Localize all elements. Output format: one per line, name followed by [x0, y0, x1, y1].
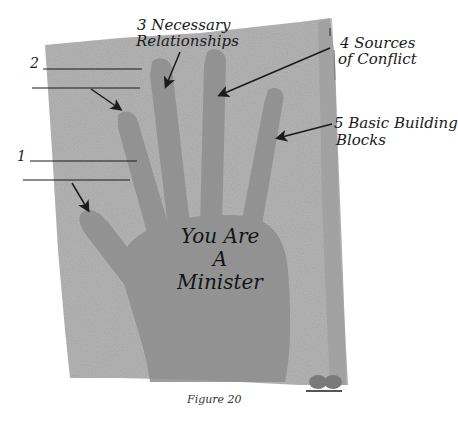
label-3-line2: Relationships: [136, 34, 239, 49]
label-number-1: 1: [17, 148, 26, 164]
label-number-2: 2: [30, 55, 39, 71]
label-5-line2: Blocks: [336, 133, 386, 148]
center-line-3: Minister: [160, 271, 280, 294]
center-line-1: You Are: [160, 225, 280, 248]
label-5-line1: 5 Basic Building: [334, 116, 458, 131]
label-4-line2: of Conflict: [338, 52, 417, 67]
center-line-2: A: [160, 248, 280, 271]
label-4-line1: 4 Sources: [340, 36, 415, 51]
label-3-line1: 3 Necessary: [137, 18, 231, 33]
center-title: You Are A Minister: [160, 225, 280, 294]
figure-caption: Figure 20: [187, 393, 242, 406]
